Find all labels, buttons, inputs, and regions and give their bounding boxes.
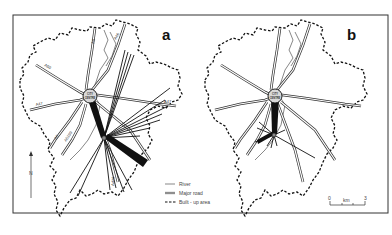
city-centre-marker (268, 89, 282, 103)
city-centre-label-line2: CENTRE (85, 96, 96, 100)
city-centre-label-line1: CITY (87, 92, 93, 96)
figure-frame (13, 15, 388, 213)
panel-letter-a: a (162, 26, 171, 43)
scale-end: 3 (364, 195, 367, 201)
city-centre-label-line1: CITY (272, 92, 278, 96)
city-centre-marker (83, 89, 97, 103)
north-label: N (29, 170, 33, 176)
road-label: A426 (110, 176, 116, 187)
map-figure: CITY CENTRE A50 A47 A47 A6 A6 A46 A426 A… (0, 0, 392, 235)
scale-start: 0 (328, 195, 331, 201)
legend-road-label: Major road (179, 190, 203, 196)
legend-built-up-label: Built - up area (179, 199, 210, 205)
panel-letter-b: b (347, 26, 356, 43)
origin-point (102, 136, 106, 140)
legend-river-label: River (179, 181, 191, 187)
road-label: A47 (164, 99, 172, 104)
origin-point (272, 133, 276, 137)
scale-unit: km (343, 197, 350, 203)
city-centre-label-line2: CENTRE (270, 96, 281, 100)
map-canvas: CITY CENTRE A50 A47 A47 A6 A6 A46 A426 A… (0, 0, 392, 235)
